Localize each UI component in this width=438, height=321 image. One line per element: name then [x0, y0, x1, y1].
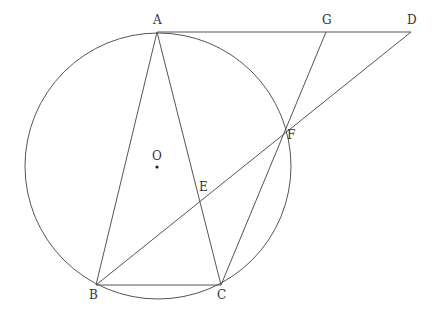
label-g: G [322, 13, 332, 27]
segments [96, 32, 411, 285]
segment-ac [157, 32, 221, 285]
label-a: A [152, 13, 162, 27]
label-o: O [152, 149, 162, 163]
label-f: F [287, 128, 295, 142]
segment-ab [96, 32, 157, 285]
segment-bd [96, 32, 411, 285]
segment-cg [221, 32, 326, 285]
geometry-diagram: A B C D G F E O [0, 0, 438, 321]
label-d: D [407, 13, 417, 27]
label-e: E [199, 180, 208, 194]
label-b: B [89, 288, 98, 302]
label-c: C [217, 288, 226, 302]
center-point-o [155, 165, 158, 168]
